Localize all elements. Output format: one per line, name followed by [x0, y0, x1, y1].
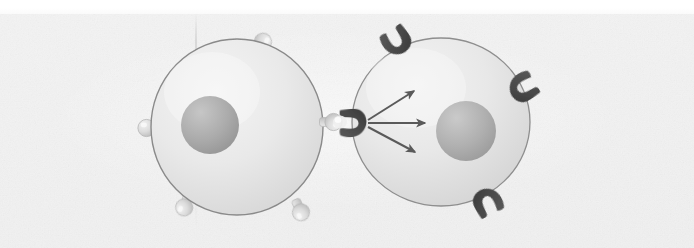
target-cell[interactable] — [339, 22, 542, 220]
signaling-cell[interactable] — [138, 30, 342, 223]
target-cell-nucleus — [436, 101, 496, 161]
binding-junction — [333, 116, 347, 129]
cell-signaling-illustration — [0, 0, 694, 248]
figure-root — [0, 0, 694, 248]
ligand-bottom-right[interactable] — [287, 196, 312, 224]
signaling-cell-nucleus — [181, 96, 239, 154]
